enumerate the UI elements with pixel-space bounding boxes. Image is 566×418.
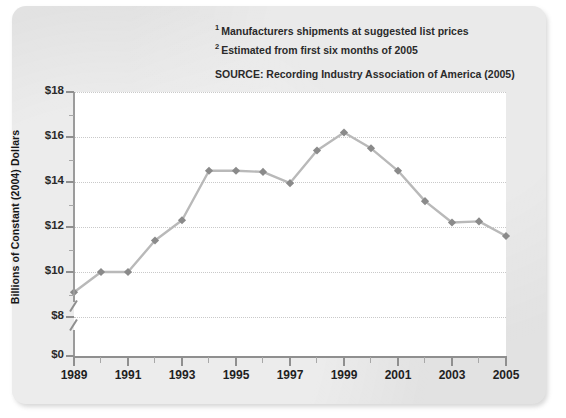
x-label-1991: 1991: [105, 368, 151, 382]
source-note: SOURCE: Recording Industry Association o…: [215, 68, 525, 80]
x-label-1989: 1989: [51, 368, 97, 382]
y-tick-14: [66, 181, 74, 183]
x-tick-1995: [235, 357, 237, 366]
y-label-10: $10: [18, 264, 64, 276]
y-label-14: $14: [18, 174, 64, 186]
x-tick-1999: [343, 357, 345, 366]
x-tick-1991: [127, 357, 129, 366]
gridline-y-16: [74, 137, 506, 138]
x-label-2003: 2003: [429, 368, 475, 382]
x-tick-2005: [505, 357, 507, 366]
x-tick-1994: [208, 357, 209, 363]
gridline-y-10: [74, 272, 506, 273]
x-tick-2004: [478, 357, 479, 363]
footnote-2-text: Estimated from first six months of 2005: [221, 43, 418, 55]
x-tick-2003: [451, 357, 453, 366]
footnote-1-marker: 1: [215, 23, 219, 32]
y-tick-12: [66, 226, 74, 228]
footnote-1: 1Manufacturers shipments at suggested li…: [215, 20, 525, 39]
y-tick-18: [66, 91, 74, 93]
y-minor-tick-9: [69, 295, 74, 296]
footnote-2: 2Estimated from first six months of 2005: [215, 39, 525, 58]
y-minor-tick-15: [69, 160, 74, 161]
y-tick-16: [66, 136, 74, 138]
gridline-y-12: [74, 227, 506, 228]
gridline-y-18: [74, 92, 506, 93]
y-axis-title-text: Billions of Constant (2004) Dollars: [9, 130, 21, 304]
x-label-1999: 1999: [321, 368, 367, 382]
x-label-1995: 1995: [213, 368, 259, 382]
x-tick-2002: [424, 357, 425, 363]
y-minor-tick-11: [69, 250, 74, 251]
x-tick-1992: [154, 357, 155, 363]
y-label-18: $18: [18, 84, 64, 96]
y-axis-line-lower-segment: [73, 330, 75, 357]
y-tick-8: [66, 316, 74, 318]
x-tick-1996: [262, 357, 263, 363]
plot-lower-field: [74, 317, 506, 357]
y-label-12: $12: [18, 219, 64, 231]
x-tick-1993: [181, 357, 183, 366]
y-tick-10: [66, 271, 74, 273]
x-tick-1990: [100, 357, 101, 363]
gridline-y-14: [74, 182, 506, 183]
y-label-16: $16: [18, 129, 64, 141]
x-tick-1997: [289, 357, 291, 366]
gridline-y-8: [74, 317, 506, 318]
x-label-2005: 2005: [483, 368, 529, 382]
y-label-8: $8: [18, 309, 64, 321]
annotation-block: 1Manufacturers shipments at suggested li…: [215, 20, 525, 80]
y-minor-tick-17: [69, 115, 74, 116]
y-label-0: $0: [18, 348, 64, 360]
footnote-1-text: Manufacturers shipments at suggested lis…: [221, 25, 468, 37]
x-tick-1998: [316, 357, 317, 363]
plot-area: [74, 92, 506, 317]
x-tick-2000: [370, 357, 371, 363]
y-minor-tick-13: [69, 205, 74, 206]
x-tick-2001: [397, 357, 399, 366]
x-tick-1989: [73, 357, 75, 366]
x-label-1997: 1997: [267, 368, 313, 382]
x-label-1993: 1993: [159, 368, 205, 382]
footnote-2-marker: 2: [215, 42, 219, 51]
x-label-2001: 2001: [375, 368, 421, 382]
